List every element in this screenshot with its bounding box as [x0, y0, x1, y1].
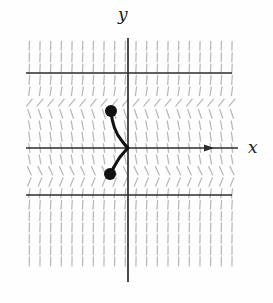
slope-tick: [231, 110, 234, 119]
slope-tick: [177, 167, 181, 175]
slope-tick: [124, 155, 126, 164]
x-axis-arrow-icon: [204, 145, 214, 152]
slope-tick: [71, 155, 73, 164]
slope-tick: [199, 155, 201, 164]
slope-tick: [39, 110, 42, 119]
slope-tick: [220, 110, 223, 119]
slope-tick: [221, 121, 223, 130]
slope-tick: [125, 200, 126, 209]
slope-tick: [210, 189, 211, 198]
slope-tick: [38, 167, 42, 175]
slope-tick: [104, 200, 105, 209]
slope-tick: [133, 99, 139, 106]
slope-tick: [157, 121, 159, 130]
slope-tick: [221, 75, 222, 84]
slope-tick: [197, 99, 203, 106]
slope-tick: [200, 200, 201, 209]
slope-tick: [188, 178, 191, 186]
slope-tick: [50, 75, 51, 84]
slope-tick: [123, 167, 127, 175]
slope-tick: [70, 178, 73, 186]
slope-tick: [209, 167, 213, 175]
slope-tick: [210, 155, 212, 164]
slope-tick: [167, 189, 168, 198]
slope-tick: [71, 110, 74, 119]
slope-tick: [178, 155, 180, 164]
slope-tick: [60, 155, 62, 164]
slope-tick: [72, 75, 73, 84]
slope-tick: [50, 121, 52, 130]
slope-tick: [135, 87, 136, 96]
slope-tick: [231, 87, 232, 96]
slope-tick: [157, 87, 158, 96]
slope-tick: [60, 110, 63, 119]
slope-tick: [165, 99, 171, 106]
slope-tick: [60, 178, 63, 186]
slope-tick: [82, 121, 84, 130]
slope-tick: [135, 155, 137, 164]
slope-tick: [209, 110, 212, 119]
slope-tick: [198, 167, 202, 175]
slope-tick: [125, 189, 126, 198]
slope-tick: [61, 200, 62, 209]
slope-tick: [29, 87, 30, 96]
slope-tick: [29, 121, 31, 130]
slope-tick: [134, 167, 138, 175]
slope-tick: [29, 132, 30, 141]
slope-tick: [209, 178, 212, 186]
slope-tick: [27, 167, 31, 175]
slope-tick: [221, 132, 222, 141]
slope-tick: [135, 189, 136, 198]
slope-tick: [154, 99, 160, 106]
slope-tick: [125, 87, 126, 96]
slope-tick: [40, 200, 41, 209]
slope-tick: [80, 99, 86, 106]
slope-tick: [136, 75, 137, 84]
slope-tick: [92, 178, 95, 186]
slope-tick: [82, 200, 83, 209]
slope-tick: [199, 132, 200, 141]
slope-tick: [134, 178, 137, 186]
slope-tick: [146, 155, 148, 164]
slope-tick: [49, 167, 53, 175]
slope-tick: [125, 132, 126, 141]
slope-tick: [135, 110, 138, 119]
slope-tick: [39, 189, 40, 198]
slope-tick: [82, 75, 83, 84]
slope-tick: [28, 178, 31, 186]
slope-tick: [39, 155, 41, 164]
slope-tick: [93, 121, 95, 130]
slope-tick: [145, 167, 149, 175]
slope-tick: [82, 189, 83, 198]
plot-canvas: [0, 0, 273, 303]
slope-tick: [210, 200, 211, 209]
slope-tick: [59, 167, 63, 175]
slope-tick: [50, 189, 51, 198]
slope-tick: [231, 132, 232, 141]
slope-tick: [81, 110, 84, 119]
slope-tick: [61, 189, 62, 198]
slope-tick: [199, 189, 200, 198]
slope-tick: [28, 110, 31, 119]
slope-tick: [61, 87, 62, 96]
slope-tick: [168, 200, 169, 209]
slope-tick: [177, 110, 180, 119]
slope-tick: [136, 200, 137, 209]
slope-tick: [50, 87, 51, 96]
slope-tick: [231, 189, 232, 198]
slope-tick: [114, 132, 115, 141]
solution-curve: [110, 111, 128, 174]
slope-field-figure: y x: [0, 0, 273, 303]
isocline-lines: [26, 73, 232, 195]
slope-tick: [220, 155, 222, 164]
slope-tick: [210, 87, 211, 96]
slope-tick: [82, 132, 83, 141]
slope-tick: [49, 178, 52, 186]
slope-tick: [167, 87, 168, 96]
slope-tick: [50, 132, 51, 141]
slope-tick: [125, 75, 126, 84]
slope-tick: [221, 200, 222, 209]
slope-tick: [58, 99, 64, 106]
slope-tick: [186, 99, 192, 106]
slope-tick: [61, 121, 63, 130]
